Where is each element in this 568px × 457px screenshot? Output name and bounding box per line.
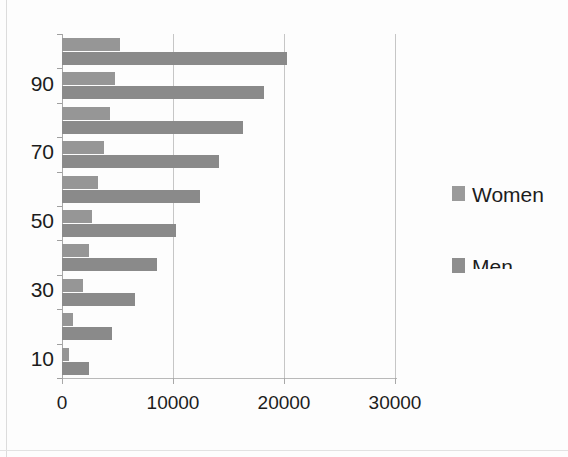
- y-tick-mark-7: [57, 275, 62, 276]
- y-tick-mark-4: [57, 172, 62, 173]
- bar-men-30: [62, 293, 135, 306]
- x-tick-mark-20000: [284, 378, 285, 384]
- bar-women-60: [62, 176, 98, 189]
- y-tick-mark-6: [57, 240, 62, 241]
- y-tick-label: 70: [2, 140, 54, 164]
- bar-women-50: [62, 210, 92, 223]
- gridline-30000: [395, 34, 396, 378]
- plot-area: [62, 34, 395, 378]
- y-tick-mark-9: [57, 344, 62, 345]
- y-tick-mark-8: [57, 309, 62, 310]
- bar-men-70: [62, 155, 219, 168]
- x-tick-mark-30000: [395, 378, 396, 384]
- y-tick-mark-0: [57, 34, 62, 35]
- x-tick-mark-10000: [173, 378, 174, 384]
- gridline-20000: [284, 34, 285, 378]
- bar-men-20: [62, 327, 112, 340]
- bar-chart: 0100002000030000 9070503010 WomenMen: [0, 0, 568, 457]
- bar-women-30: [62, 279, 83, 292]
- legend-swatch-icon: [452, 186, 465, 201]
- y-tick-mark-3: [57, 137, 62, 138]
- bar-women-10: [62, 348, 69, 361]
- bar-men-10: [62, 362, 89, 375]
- bar-women-100: [62, 38, 120, 51]
- bar-women-90: [62, 72, 115, 85]
- y-tick-label: 90: [2, 72, 54, 96]
- legend-label: Men: [472, 253, 564, 269]
- y-tick-mark-5: [57, 206, 62, 207]
- legend-swatch-icon: [452, 258, 465, 273]
- bar-women-80: [62, 107, 110, 120]
- screenshot-root: 0100002000030000 9070503010 WomenMen: [0, 0, 568, 457]
- y-tick-mark-2: [57, 103, 62, 104]
- x-tick-label: 0: [57, 392, 68, 414]
- bar-men-50: [62, 224, 176, 237]
- y-tick-label: 50: [2, 209, 54, 233]
- x-axis-line: [57, 378, 397, 379]
- bar-men-40: [62, 258, 157, 271]
- bar-women-70: [62, 141, 104, 154]
- bar-men-60: [62, 190, 200, 203]
- x-tick-mark-0: [62, 378, 63, 384]
- bar-men-100: [62, 52, 287, 65]
- x-tick-label: 20000: [258, 392, 311, 414]
- bar-men-90: [62, 86, 264, 99]
- x-tick-label: 30000: [369, 392, 422, 414]
- y-tick-label: 10: [2, 347, 54, 371]
- y-tick-mark-1: [57, 68, 62, 69]
- bar-women-40: [62, 244, 89, 257]
- bar-men-80: [62, 121, 243, 134]
- x-tick-label: 10000: [147, 392, 200, 414]
- legend-label: Women: [472, 181, 564, 209]
- bar-women-20: [62, 313, 73, 326]
- y-tick-label: 30: [2, 278, 54, 302]
